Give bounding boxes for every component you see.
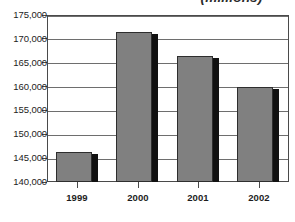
x-axis-tick <box>198 182 199 188</box>
bar-1999 <box>56 152 92 182</box>
y-axis-label: 140,000 <box>5 177 47 187</box>
x-axis-label-2000: 2000 <box>108 192 168 203</box>
bar-shadow <box>91 154 98 182</box>
chart-title: (millions) <box>168 0 295 5</box>
y-axis-label: 160,000 <box>5 82 47 92</box>
x-axis-tick <box>138 182 139 188</box>
x-axis-label-2002: 2002 <box>229 192 289 203</box>
y-axis-label: 150,000 <box>5 129 47 139</box>
gridline <box>48 39 288 40</box>
bar-shadow <box>272 89 279 182</box>
y-axis-label: 155,000 <box>5 105 47 115</box>
bar-shadow <box>151 34 158 182</box>
y-axis: 140,000145,000150,000155,000160,000165,0… <box>0 0 47 222</box>
gridline <box>48 63 288 64</box>
y-axis-label: 145,000 <box>5 153 47 163</box>
bar-2000 <box>116 32 152 182</box>
y-axis-label: 170,000 <box>5 34 47 44</box>
x-axis-label-1999: 1999 <box>47 192 107 203</box>
y-axis-label: 175,000 <box>5 10 47 20</box>
gridline <box>48 16 288 17</box>
bar-2001 <box>177 56 213 182</box>
bar-shadow <box>212 58 219 182</box>
bar-2002 <box>237 87 273 182</box>
x-axis-label-2001: 2001 <box>168 192 228 203</box>
bar-chart-figure: (millions) 140,000145,000150,000155,0001… <box>0 0 295 222</box>
x-axis-tick <box>77 182 78 188</box>
y-axis-label: 165,000 <box>5 58 47 68</box>
x-axis-tick <box>259 182 260 188</box>
